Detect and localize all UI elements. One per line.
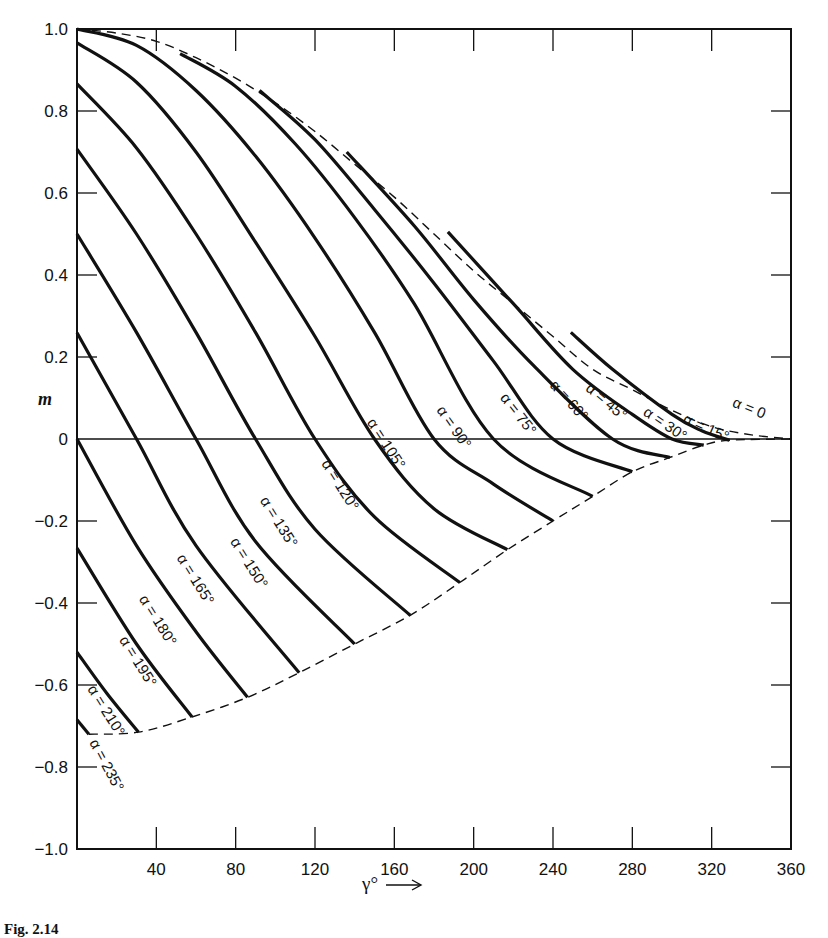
x-tick-label: 120 xyxy=(301,860,329,879)
envelope-curve xyxy=(77,29,791,439)
figure-caption: Fig. 2.14 xyxy=(4,921,59,938)
y-axis-title: m xyxy=(38,389,52,409)
alpha-curve xyxy=(77,439,248,697)
y-tick-label: −0.8 xyxy=(34,758,68,777)
alpha-curve xyxy=(77,29,553,521)
alpha-curves xyxy=(77,29,730,734)
y-tick-label: −1.0 xyxy=(34,840,68,859)
curve-label: α = 150° xyxy=(227,534,272,591)
arrow-right-icon xyxy=(386,880,421,890)
y-tick-label: 0.4 xyxy=(44,266,68,285)
x-tick-label: 320 xyxy=(697,860,725,879)
alpha-curve xyxy=(77,720,89,734)
curve-label: α = 235° xyxy=(86,736,128,794)
y-tick-label: −0.4 xyxy=(34,594,68,613)
x-axis-title: γ° xyxy=(361,873,378,894)
x-tick-label: 280 xyxy=(618,860,646,879)
y-tick-label: 0 xyxy=(59,430,68,449)
y-tick-label: 1.0 xyxy=(44,20,68,39)
x-tick-label: 40 xyxy=(147,860,166,879)
x-tick-label: 360 xyxy=(777,860,805,879)
curve-label: α = 60° xyxy=(547,376,592,423)
y-tick-label: −0.2 xyxy=(34,512,68,531)
curve-label: α = 120° xyxy=(318,456,363,513)
y-tick-label: 0.8 xyxy=(44,102,68,121)
x-tick-label: 240 xyxy=(539,860,567,879)
axis-ticks: 40801201602002402803203601.00.80.60.40.2… xyxy=(34,20,805,879)
curve-label: α = 165° xyxy=(174,550,219,607)
x-tick-label: 80 xyxy=(226,860,245,879)
y-tick-label: 0.2 xyxy=(44,348,68,367)
y-tick-label: 0.6 xyxy=(44,184,68,203)
x-tick-label: 200 xyxy=(459,860,487,879)
curve-label: α = 0 xyxy=(730,393,768,422)
y-tick-label: −0.6 xyxy=(34,676,68,695)
x-tick-label: 160 xyxy=(380,860,408,879)
curve-label: α = 105° xyxy=(364,415,409,472)
curve-label: α = 195° xyxy=(116,632,161,689)
